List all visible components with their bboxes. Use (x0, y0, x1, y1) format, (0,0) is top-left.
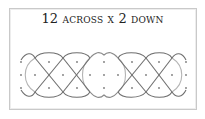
celtic-braid-pattern (0, 0, 205, 119)
right-end-arc (172, 58, 182, 92)
left-end-arc (25, 58, 35, 92)
dot-grid (20, 61, 187, 89)
